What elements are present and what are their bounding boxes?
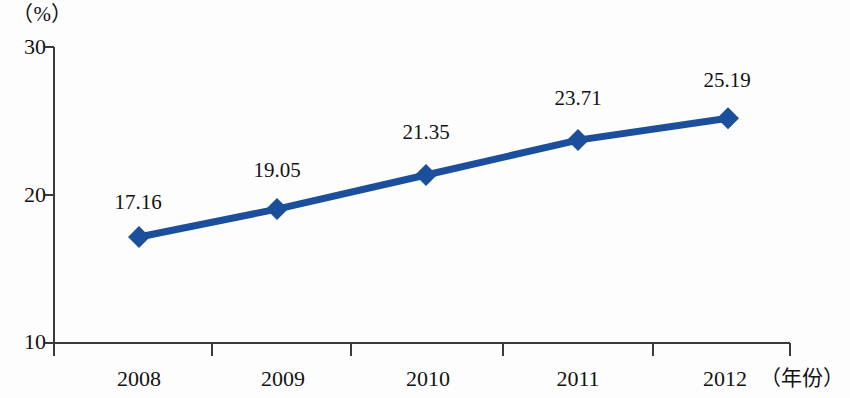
x-axis-ticks [54,343,790,356]
data-point-marker-2010 [415,164,437,186]
plot-area [0,0,850,398]
data-point-marker-2011 [567,129,589,151]
axis-lines [54,47,790,343]
line-chart: （%） （年份） 30 20 10 2008 2009 2010 2011 20… [0,0,850,398]
y-axis-ticks [45,47,54,343]
data-point-marker-2009 [266,198,288,220]
data-point-marker-2012 [717,107,739,129]
data-point-marker-2008 [128,226,150,248]
